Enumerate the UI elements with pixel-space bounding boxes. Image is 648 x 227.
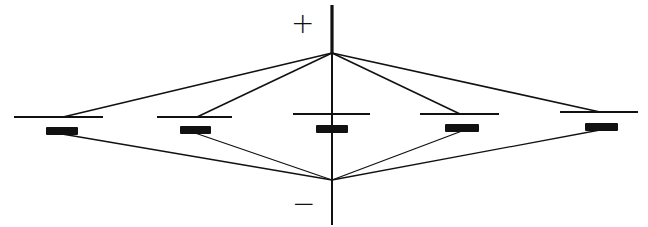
positive-connection-5 [332,53,600,112]
negative-bar-3 [316,125,348,133]
negative-connection-2 [195,133,332,180]
electrode-diagram [0,0,648,227]
positive-connection-1 [63,53,332,117]
positive-connection-4 [332,53,460,114]
negative-bar-5 [585,123,618,131]
positive-label: + [291,10,314,38]
positive-plates [14,112,638,117]
negative-bar-4 [445,124,479,132]
negative-connection-1 [62,134,332,180]
negative-connection-5 [332,130,600,180]
negative-bar-1 [46,127,78,135]
positive-connection-2 [197,53,332,117]
negative-bar-2 [180,126,211,134]
negative-label: − [292,190,315,218]
negative-connection-4 [332,131,462,180]
